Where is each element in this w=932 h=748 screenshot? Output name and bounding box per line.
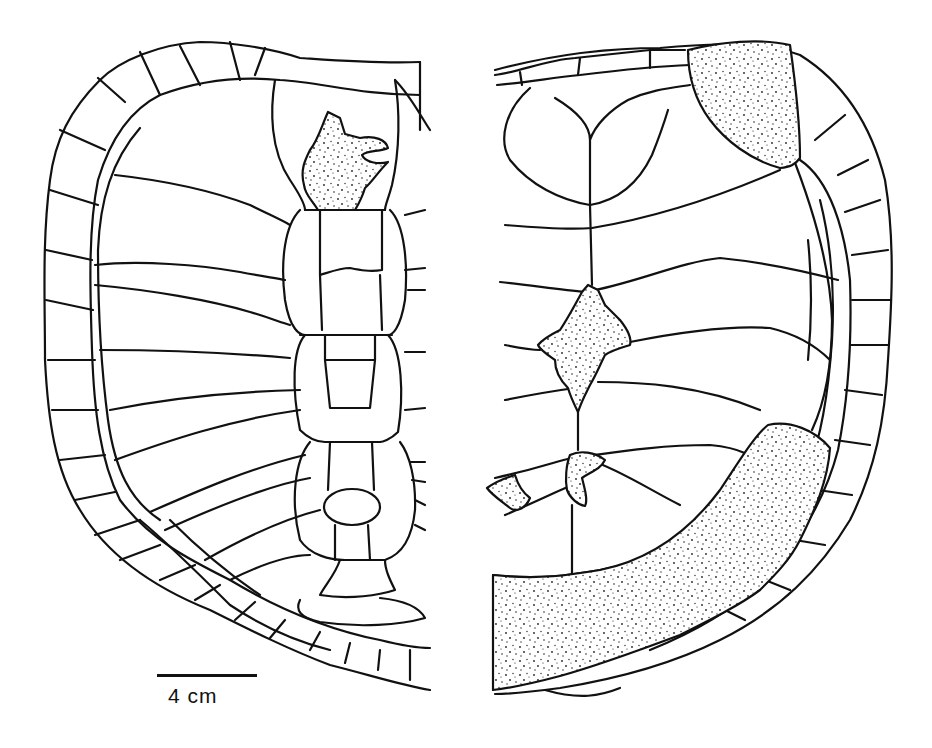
shell-drawing — [0, 0, 932, 748]
left-carapace — [44, 42, 430, 690]
scale-bar — [157, 674, 257, 677]
right-carapace — [487, 41, 892, 696]
scale-label: 4 cm — [168, 684, 218, 708]
scale-bar-group — [157, 674, 257, 677]
turtle-shell-figure: 4 cm — [0, 0, 932, 748]
